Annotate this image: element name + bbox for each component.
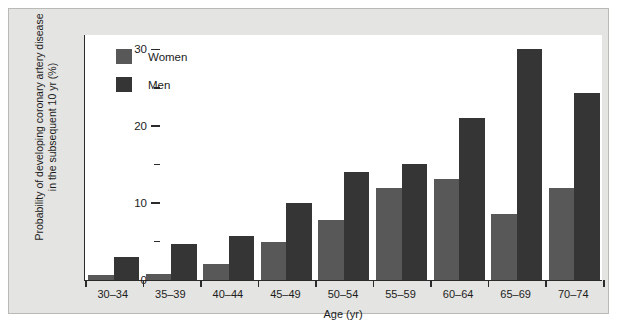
bar-women-30–34: [88, 275, 114, 280]
bar-men-65–69: [517, 49, 543, 280]
x-tick-line: [373, 280, 375, 287]
bar-men-60–64: [459, 118, 485, 280]
bar-men-35–39: [171, 244, 197, 280]
legend-label-women: Women: [148, 51, 187, 63]
bar-group: [488, 35, 546, 280]
bar-men-70–74: [574, 93, 600, 280]
x-tick-line: [488, 280, 490, 287]
x-tick-line: [200, 280, 202, 287]
x-axis-label-45–49: 45–49: [257, 288, 315, 300]
x-axis-label-35–39: 35–39: [142, 288, 200, 300]
x-axis-label-50–54: 50–54: [314, 288, 372, 300]
bar-group: [545, 35, 603, 280]
x-axis-label-30–34: 30–34: [84, 288, 142, 300]
x-tick-line: [545, 280, 547, 287]
y-axis-title-line2: in the subsequent 10 yr (%): [46, 63, 58, 191]
x-axis-label-70–74: 70–74: [544, 288, 602, 300]
bar-group: [430, 35, 488, 280]
x-axis-label-40–44: 40–44: [199, 288, 257, 300]
bar-women-65–69: [491, 214, 517, 280]
chart-figure: Probability of developing coronary arter…: [0, 0, 617, 326]
bar-group: [373, 35, 431, 280]
bar-women-55–59: [376, 188, 402, 280]
legend-swatch-women-icon: [116, 49, 132, 64]
x-tick-line: [430, 280, 432, 287]
y-axis-title: Probability of developing coronary arter…: [33, 4, 59, 250]
bar-men-30–34: [114, 257, 140, 280]
bar-group: [200, 35, 258, 280]
x-tick-line: [85, 280, 87, 287]
bar-men-50–54: [344, 172, 370, 280]
bar-women-45–49: [261, 242, 287, 280]
bar-women-70–74: [549, 188, 575, 280]
bar-women-40–44: [203, 264, 229, 280]
bar-women-50–54: [318, 220, 344, 280]
legend-label-men: Men: [148, 79, 170, 91]
legend-item-women: Women: [116, 49, 187, 64]
x-tick-line: [143, 280, 145, 287]
chart-legend: Women Men: [116, 49, 187, 105]
chart-panel: Probability of developing coronary arter…: [8, 8, 609, 314]
x-tick-line: [315, 280, 317, 287]
legend-swatch-men-icon: [116, 77, 132, 92]
x-axis-label-65–69: 65–69: [487, 288, 545, 300]
bar-women-60–64: [434, 179, 460, 280]
y-axis-title-line1: Probability of developing coronary arter…: [33, 13, 45, 240]
bar-men-55–59: [402, 164, 428, 280]
x-axis-label-60–64: 60–64: [429, 288, 487, 300]
bar-women-35–39: [146, 274, 172, 280]
x-tick-line: [258, 280, 260, 287]
bar-group: [315, 35, 373, 280]
legend-item-men: Men: [116, 77, 187, 92]
x-axis-label-55–59: 55–59: [372, 288, 430, 300]
bar-men-45–49: [286, 203, 312, 280]
x-axis-title: Age (yr): [84, 308, 602, 320]
x-tick-line: [603, 280, 605, 287]
bar-group: [258, 35, 316, 280]
bar-men-40–44: [229, 236, 255, 280]
